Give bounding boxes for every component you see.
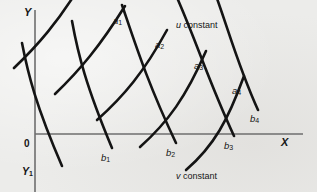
curve-label-subscript: 1 (106, 156, 110, 163)
figure-canvas: Y X 0 Y1 u constant v constant a1a2a3a4b… (0, 0, 317, 192)
curve-label-subscript: 1 (118, 19, 122, 26)
curve-label-subscript: 2 (160, 43, 164, 50)
u-constant-caption: u constant (176, 21, 218, 30)
y-secondary-axis-subscript: 1 (29, 170, 33, 177)
curve-label-b1: b1 (101, 153, 110, 163)
curve-label-a3: a3 (194, 61, 203, 71)
curve-label-subscript: 4 (237, 89, 241, 96)
curve-label-a2: a2 (155, 40, 164, 50)
curve-label-subscript: 3 (229, 144, 233, 151)
curve-label-subscript: 2 (171, 151, 175, 158)
curve-label-b4: b4 (250, 114, 259, 124)
y-axis-label: Y (24, 7, 31, 18)
curve-label-subscript: 3 (199, 64, 203, 71)
curve-v-constant (122, 5, 176, 143)
curve-label-b2: b2 (166, 148, 175, 158)
v-constant-caption: v constant (176, 172, 217, 181)
u-constant-text: constant (181, 20, 218, 30)
curve-v-constant (72, 21, 112, 148)
curve-label-b3: b3 (224, 141, 233, 151)
origin-label: 0 (24, 139, 30, 149)
y-secondary-axis-label: Y1 (22, 166, 33, 177)
curve-label-a4: a4 (232, 86, 241, 96)
y-secondary-axis-letter: Y (22, 165, 29, 177)
v-constant-text: constant (181, 171, 218, 181)
x-axis-label: X (281, 137, 288, 148)
curve-family-group (14, 0, 258, 170)
curve-label-a1: a1 (113, 16, 122, 26)
coordinate-net-svg (0, 0, 317, 192)
curve-label-subscript: 4 (255, 117, 259, 124)
